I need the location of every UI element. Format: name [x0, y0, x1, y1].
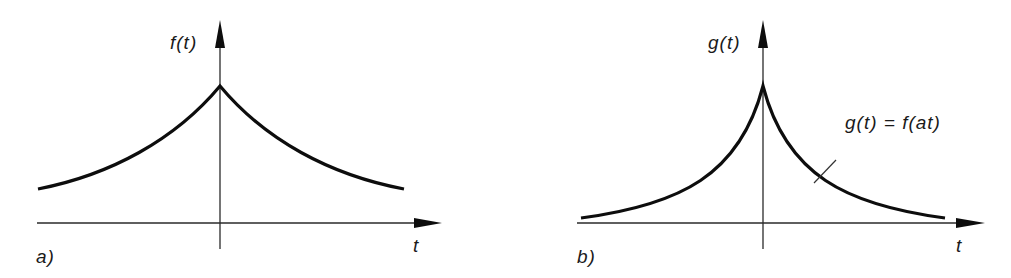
curve-f — [38, 86, 404, 189]
y-axis-arrow-icon — [215, 20, 225, 48]
curve-annotation-b: g(t) = f(at) — [845, 112, 941, 133]
panel-b: g(t) t b) g(t) = f(at) — [577, 20, 985, 267]
panel-a: f(t) t a) — [36, 20, 442, 267]
x-axis-label-b: t — [956, 235, 962, 256]
y-axis-label-b: g(t) — [708, 32, 741, 53]
panel-label-a: a) — [36, 246, 55, 267]
panel-label-b: b) — [577, 246, 596, 267]
y-axis-label-a: f(t) — [170, 32, 197, 53]
t-axis-arrow-icon — [414, 218, 442, 228]
t-axis-arrow-icon — [956, 218, 985, 228]
figure-canvas: f(t) t a) g(t) t b) g(t) = f(at) — [0, 0, 1011, 278]
x-axis-label-a: t — [413, 235, 419, 256]
y-axis-arrow-icon — [758, 20, 768, 48]
